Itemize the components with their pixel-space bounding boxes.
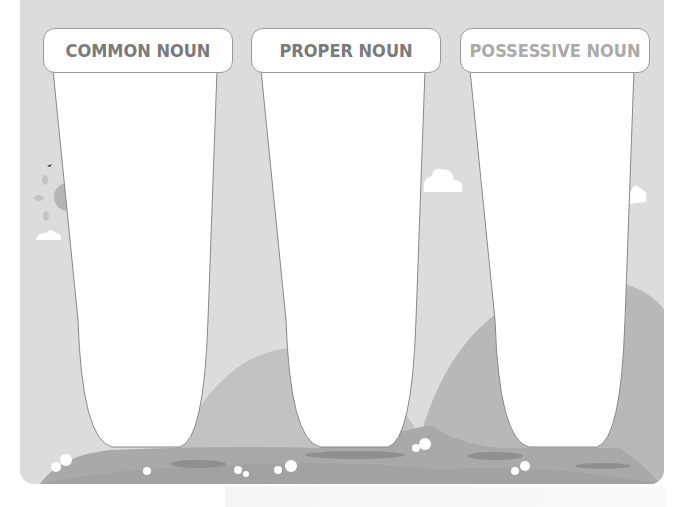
header-label: COMMON NOUN (44, 29, 232, 72)
header-label: POSSESSIVE NOUN (461, 29, 649, 72)
faded-background-text (225, 486, 665, 507)
cloud-icon (424, 169, 463, 192)
header-common-noun: COMMON NOUN (43, 28, 233, 73)
header-proper-noun: PROPER NOUN (251, 28, 441, 73)
cloud-icon (628, 185, 647, 204)
bird-icon (47, 164, 52, 167)
header-label: PROPER NOUN (252, 29, 440, 72)
cloud-icon (36, 230, 61, 240)
header-possessive-noun: POSSESSIVE NOUN (460, 28, 650, 73)
pocket-common-noun[interactable] (53, 70, 217, 447)
